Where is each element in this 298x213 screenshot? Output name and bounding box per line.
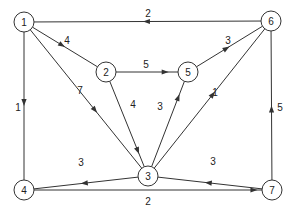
arrowhead-icon: [205, 181, 212, 186]
edge-weight-label: 3: [210, 156, 216, 167]
node-4: 4: [14, 180, 34, 200]
node-label: 3: [145, 171, 151, 182]
edge-2-to-3: [110, 81, 145, 166]
node-label: 2: [103, 67, 109, 78]
graph-diagram: 2471543313325 1234567: [0, 0, 298, 213]
edge-weight-label: 5: [143, 59, 149, 70]
node-label: 4: [21, 185, 27, 196]
node-label: 6: [268, 16, 274, 27]
edge-weight-label: 1: [15, 102, 21, 113]
edge-3-to-5: [152, 81, 185, 166]
edge-weight-label: 3: [78, 157, 84, 168]
edge-2-to-5: [116, 69, 178, 74]
arrowhead-icon: [143, 19, 150, 24]
edge-weight-label: 4: [64, 35, 70, 46]
edge-3-to-4: [34, 177, 138, 189]
edge-4-to-7: [34, 187, 262, 192]
edge-5-to-6: [197, 26, 263, 67]
node-label: 1: [21, 17, 27, 28]
arrowhead-icon: [81, 180, 88, 185]
edge-7-to-3: [158, 177, 262, 189]
edge-weight-label: 2: [145, 196, 151, 207]
edge-weight-label: 5: [277, 102, 283, 113]
edge-1-to-2: [33, 27, 98, 67]
arrowhead-icon: [21, 99, 26, 106]
edge-1-to-3: [30, 30, 141, 168]
node-2: 2: [96, 62, 116, 82]
edge-7-to-6: [269, 31, 274, 180]
node-7: 7: [262, 180, 282, 200]
node-label: 5: [185, 67, 191, 78]
edge-weight-label: 1: [212, 87, 218, 98]
edge-weight-label: 2: [145, 8, 151, 19]
edge-weight-label: 3: [157, 101, 163, 112]
edge-weight-label: 7: [77, 85, 83, 96]
node-6: 6: [261, 11, 281, 31]
node-5: 5: [178, 62, 198, 82]
node-label: 7: [269, 185, 275, 196]
edge-1-to-4: [21, 32, 26, 180]
arrowhead-icon: [222, 47, 229, 53]
arrowhead-icon: [134, 146, 139, 153]
edge-weight-label: 4: [130, 99, 136, 110]
arrowhead-icon: [162, 69, 169, 74]
edge-6-to-1: [34, 19, 261, 24]
arrowhead-icon: [175, 94, 180, 101]
node-3: 3: [138, 166, 158, 186]
edge-3-to-6: [154, 29, 265, 168]
node-1: 1: [14, 12, 34, 32]
arrowhead-icon: [269, 106, 274, 113]
edge-weight-label: 3: [225, 35, 231, 46]
